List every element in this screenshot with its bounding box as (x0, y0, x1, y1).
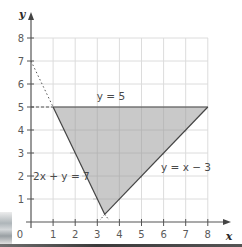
label-y-equals-5: y = 5 (97, 90, 125, 102)
x-axis-label: x (225, 230, 233, 243)
y-tick-3: 3 (18, 148, 24, 159)
label-y-equals-x-minus-3: y = x − 3 (161, 161, 211, 173)
x-tick-6: 6 (160, 229, 166, 240)
x-tick-8: 8 (205, 229, 211, 240)
y-tick-7: 7 (18, 56, 24, 67)
y-tick-4: 4 (18, 125, 24, 136)
x-tick-5: 5 (138, 229, 144, 240)
y-tick-8: 8 (18, 33, 24, 44)
y-tick-6: 6 (18, 79, 24, 90)
x-tick-1: 1 (50, 229, 56, 240)
x-tick-3: 3 (94, 229, 100, 240)
y-tick-1: 1 (18, 194, 24, 205)
y-tick-5: 5 (18, 102, 24, 113)
photo-edge-artifact (0, 212, 12, 244)
guide-lower-dotted (100, 214, 105, 220)
guide-lower-dotted-2 (105, 214, 109, 220)
origin-label: 0 (17, 229, 23, 240)
y-axis-label: y (18, 8, 27, 21)
x-tick-7: 7 (183, 229, 189, 240)
inequality-graph: 0 1 2 3 4 5 6 7 8 1 2 3 4 5 6 7 8 y x y … (0, 0, 242, 247)
y-tick-labels: 1 2 3 4 5 6 7 8 (18, 33, 24, 205)
y-tick-2: 2 (18, 171, 24, 182)
x-tick-labels: 0 1 2 3 4 5 6 7 8 (17, 229, 211, 240)
label-2x-plus-y-equals-7: 2x + y = 7 (33, 170, 90, 182)
x-tick-2: 2 (72, 229, 78, 240)
x-tick-4: 4 (116, 229, 122, 240)
